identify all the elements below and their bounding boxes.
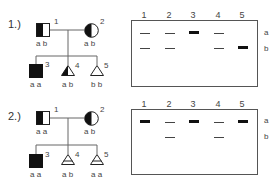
female-carrier-icon — [84, 111, 99, 126]
fetus-marked-icon — [90, 154, 104, 165]
allele-label-a: a — [264, 28, 268, 37]
genotype-label: a b — [62, 170, 73, 179]
lane-number: 5 — [236, 99, 248, 109]
lane-number: 2 — [163, 99, 175, 109]
allele-label-b: b — [264, 132, 268, 141]
lane-number: 3 — [187, 10, 199, 20]
band-lane2-a — [165, 122, 175, 123]
individual-number: 3 — [45, 60, 49, 69]
band-lane4-a — [214, 122, 224, 123]
individual-number: 2 — [100, 17, 104, 26]
band-lane1-b — [140, 48, 150, 49]
fetus-carrier-icon — [61, 65, 75, 76]
band-lane2-b — [165, 137, 175, 138]
allele-label-a: a — [264, 116, 268, 125]
band-lane5-a — [238, 120, 248, 123]
lane-number: 2 — [163, 10, 175, 20]
band-lane4-a — [214, 33, 224, 34]
band-lane1-a — [140, 33, 150, 34]
band-lane5-b — [238, 46, 248, 49]
male-affected-icon — [29, 154, 43, 168]
genotype-label: b b — [91, 80, 102, 89]
individual-number: 1 — [54, 105, 58, 114]
individual-number: 5 — [104, 150, 108, 159]
band-lane2-b — [165, 48, 175, 49]
allele-label-b: b — [264, 44, 268, 53]
female-carrier-icon — [84, 23, 99, 38]
genotype-label: a a — [91, 170, 102, 179]
band-lane2-a — [165, 33, 175, 34]
male-affected-icon — [29, 64, 43, 78]
lane-number: 4 — [212, 99, 224, 109]
lane-number: 4 — [212, 10, 224, 20]
gel-2 — [131, 109, 258, 175]
lane-number: 1 — [138, 99, 150, 109]
male-carrier-icon — [36, 23, 50, 37]
individual-number: 3 — [45, 150, 49, 159]
individual-number: 2 — [100, 105, 104, 114]
lane-number: 3 — [187, 99, 199, 109]
lane-number: 5 — [236, 10, 248, 20]
genotype-label: a a — [30, 80, 41, 89]
lane-number: 1 — [138, 10, 150, 20]
individual-number: 4 — [75, 61, 79, 70]
individual-number: 5 — [104, 61, 108, 70]
band-lane4-b — [214, 137, 224, 138]
band-lane4-b — [214, 48, 224, 49]
fetus-unaffected-icon — [90, 65, 104, 76]
band-lane3-a — [189, 120, 199, 123]
male-carrier-icon — [36, 111, 50, 125]
genotype-label: a b — [36, 39, 47, 48]
band-lane1-a — [140, 120, 150, 123]
band-lane3-a — [189, 31, 199, 34]
fetus-marked-icon — [61, 154, 75, 165]
genotype-label: a b — [84, 127, 95, 136]
individual-number: 4 — [75, 150, 79, 159]
pedigree-1-lines — [0, 0, 140, 92]
genotype-label: a b — [62, 80, 73, 89]
genotype-label: a a — [36, 127, 47, 136]
individual-number: 1 — [54, 17, 58, 26]
genotype-label: a b — [84, 39, 95, 48]
genotype-label: a a — [30, 170, 41, 179]
